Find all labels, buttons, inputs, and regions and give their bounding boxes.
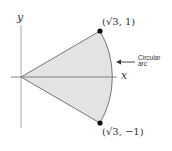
point-top [97, 28, 102, 33]
annotation-line2: arc [138, 60, 147, 67]
y-axis-label: y [17, 11, 23, 24]
arrow-head-icon [116, 60, 121, 65]
x-axis-label: x [121, 69, 127, 82]
top-point-label: (√3, 1) [102, 16, 135, 27]
sector-diagram [0, 0, 172, 151]
circular-arc-annotation: Circular arc [138, 55, 160, 67]
bottom-point-label: (√3, −1) [102, 126, 144, 137]
point-bottom [97, 120, 102, 125]
